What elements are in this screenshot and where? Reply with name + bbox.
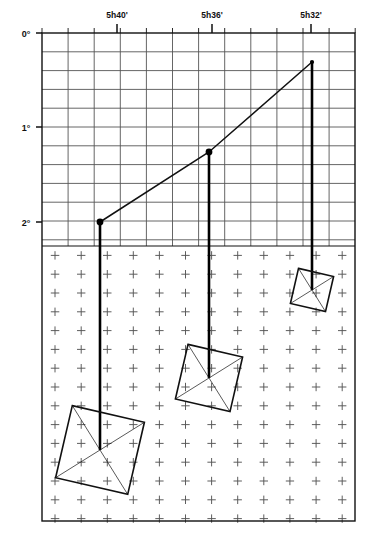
data-point-marker	[206, 149, 213, 156]
x-tick-label-1: 5h40'	[106, 10, 127, 20]
chart-svg: 5h40' 5h36' 5h32' 0° 1° 2°	[0, 0, 378, 541]
astronomical-chart-figure: 5h40' 5h36' 5h32' 0° 1° 2°	[0, 0, 378, 541]
y-tick-label-2: 1°	[22, 123, 31, 133]
y-tick-label-1: 0°	[22, 29, 31, 39]
data-point-marker	[310, 60, 314, 64]
x-tick-label-3: 5h32'	[300, 10, 321, 20]
chart-background	[0, 0, 378, 541]
y-tick-label-3: 2°	[22, 218, 31, 228]
data-point-marker	[97, 219, 104, 226]
x-tick-label-2: 5h36'	[201, 10, 222, 20]
